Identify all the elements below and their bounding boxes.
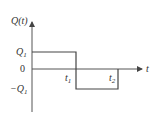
t2-label: t2 [109, 72, 116, 85]
waveform-line [32, 52, 118, 89]
waveform-diagram: Q(t) Q1 0 −Q1 t1 t2 t [0, 0, 156, 124]
neg-q1-label: −Q1 [10, 83, 27, 96]
q1-label: Q1 [16, 46, 27, 59]
t1-label: t1 [65, 72, 71, 85]
zero-label: 0 [20, 63, 25, 74]
y-axis-label: Q(t) [11, 15, 28, 27]
x-axis-label: t [146, 63, 149, 74]
